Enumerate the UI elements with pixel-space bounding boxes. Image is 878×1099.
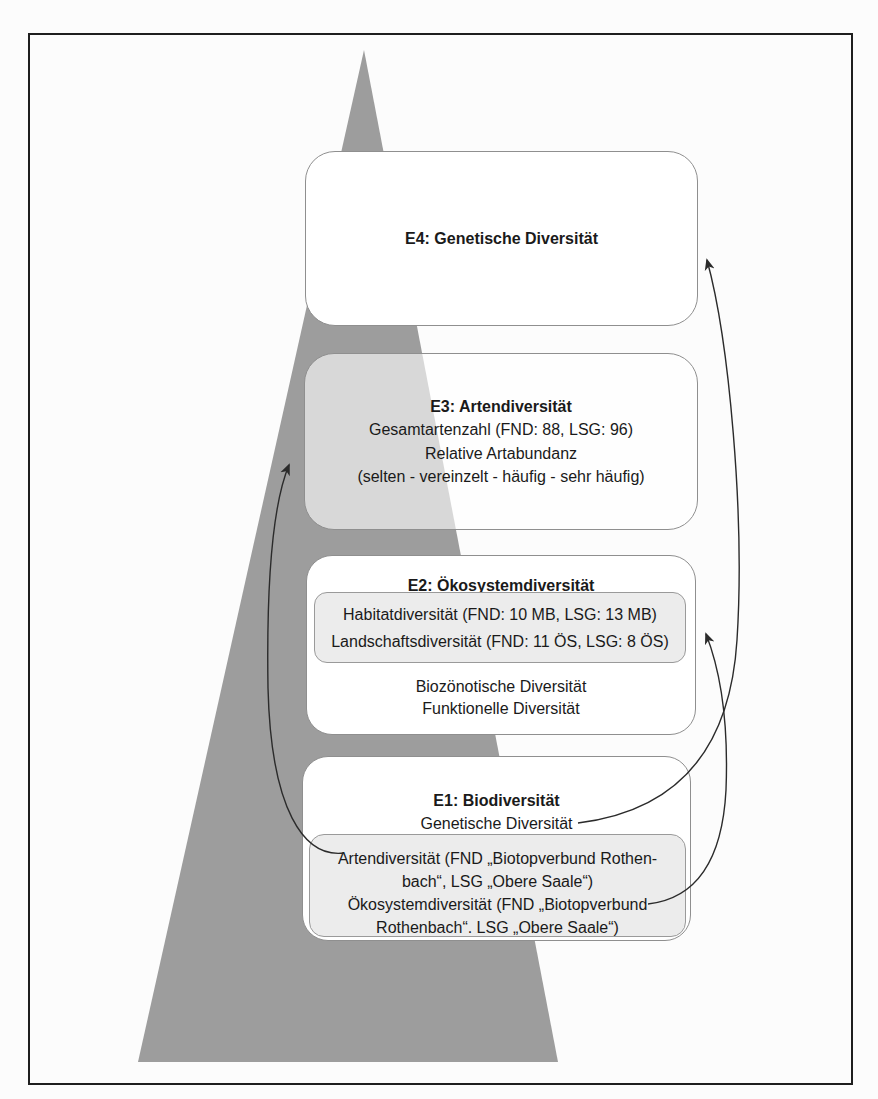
level-box-e1: E1: Biodiversität Genetische Diversität …	[302, 756, 691, 941]
e2-functional-line: Funktionelle Diversität	[307, 698, 695, 720]
level-title-e4: E4: Genetische Diversität	[405, 227, 598, 251]
e1-ecosystem-line-1: Ökosystemdiversität (FND „Biotopverbund	[310, 893, 685, 916]
e2-lower-lines: Biozönotische Diversität Funktionelle Di…	[307, 676, 695, 720]
e1-inner-box: Artendiversität (FND „Biotopverbund Roth…	[309, 834, 686, 937]
e1-ecosystem-line-2: Rothenbach“. LSG „Obere Saale“)	[310, 916, 685, 939]
e3-total-species-line: Gesamtartenzahl (FND: 88, LSG: 96)	[369, 418, 633, 442]
scanned-figure-page: E4: Genetische Diversität E3: Artendiver…	[0, 0, 878, 1099]
e1-species-line-1: Artendiversität (FND „Biotopverbund Roth…	[310, 847, 685, 870]
e3-abundance-scale-line: (selten - vereinzelt - häufig - sehr häu…	[357, 465, 644, 489]
level-box-e4: E4: Genetische Diversität	[305, 151, 698, 326]
e3-abundance-line: Relative Artabundanz	[425, 442, 577, 466]
e2-habitat-line: Habitatdiversität (FND: 10 MB, LSG: 13 M…	[343, 601, 657, 628]
e2-landscape-line: Landschaftsdiversität (FND: 11 ÖS, LSG: …	[331, 628, 669, 655]
level-title-e1: E1: Biodiversität	[303, 789, 690, 811]
level-title-e3: E3: Artendiversität	[430, 395, 572, 419]
e2-biocoenotic-line: Biozönotische Diversität	[307, 676, 695, 698]
level-box-e2: E2: Ökosystemdiversität Habitatdiversitä…	[306, 555, 696, 735]
e1-genetic-line: Genetische Diversität	[303, 812, 690, 834]
level-box-e3: E3: Artendiversität Gesamtartenzahl (FND…	[304, 353, 698, 530]
e1-species-line-2: bach“, LSG „Obere Saale“)	[310, 870, 685, 893]
e2-inner-box: Habitatdiversität (FND: 10 MB, LSG: 13 M…	[314, 592, 686, 663]
